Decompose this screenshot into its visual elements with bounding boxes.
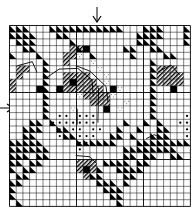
dot-cell (92, 122, 94, 124)
hatch-cell (70, 46, 77, 53)
dot-cell (52, 122, 54, 124)
dot-cell (59, 122, 61, 124)
hatch-cell (83, 79, 90, 86)
hatch-cell (90, 99, 97, 106)
dot-cell (92, 135, 94, 137)
hatch-cell (103, 99, 110, 106)
center-column-arrow (92, 7, 102, 23)
hatch-cell (77, 79, 84, 86)
dot-cell (72, 122, 74, 124)
hatch-cell (63, 52, 70, 59)
hatch-cell (97, 99, 104, 106)
dot-cell (92, 115, 94, 117)
hatch-cell (70, 72, 77, 79)
hatch-cell (177, 79, 184, 86)
dot-cell (85, 142, 87, 144)
dot-cell (179, 122, 181, 124)
dot-cell (186, 128, 188, 130)
dot-cell (79, 122, 81, 124)
dot-cell (92, 128, 94, 130)
solid-cell (83, 166, 90, 173)
dot-cell (99, 128, 101, 130)
dot-cell (79, 142, 81, 144)
hatch-cell (90, 79, 97, 86)
hatch-cell (164, 72, 171, 79)
dot-cell (79, 128, 81, 130)
dot-cell (65, 122, 67, 124)
pattern-grid (9, 25, 191, 207)
solid-cell (83, 46, 90, 53)
hatch-cell (170, 79, 177, 86)
dot-cell (59, 128, 61, 130)
hatch-cell (83, 93, 90, 100)
solid-cell (110, 86, 117, 93)
hatch-cell (164, 79, 171, 86)
dot-cell (186, 122, 188, 124)
hatch-cell (16, 72, 23, 79)
dot-cell (79, 135, 81, 137)
hatch-cell (63, 72, 70, 79)
solid-cell (56, 86, 63, 93)
hatch-cell (157, 79, 164, 86)
dot-cell (79, 148, 81, 150)
hatch-cell (10, 86, 17, 93)
hatch-cell (70, 86, 77, 93)
arrow-down-icon (92, 7, 102, 23)
dot-cell (79, 115, 81, 117)
hatch-cell (157, 72, 164, 79)
hatch-cell (83, 86, 90, 93)
dot-cell (85, 135, 87, 137)
dot-cell (186, 135, 188, 137)
hatch-cell (10, 79, 17, 86)
dot-cell (59, 115, 61, 117)
hatch-cell (63, 79, 70, 86)
dot-cell (85, 122, 87, 124)
hatch-cell (77, 160, 84, 167)
dot-cell (186, 115, 188, 117)
solid-cell (103, 106, 110, 113)
hatch-cell (90, 166, 97, 173)
dot-cell (59, 135, 61, 137)
hatch-cell (77, 166, 84, 173)
hatch-cell (97, 86, 104, 93)
hatch-cell (83, 160, 90, 167)
dot-cell (72, 128, 74, 130)
hatch-cell (70, 52, 77, 59)
dot-cell (65, 115, 67, 117)
hatch-cell (97, 93, 104, 100)
hatch-cell (77, 86, 84, 93)
hatch-cell (83, 173, 90, 180)
hatch-cell (23, 66, 30, 73)
pattern-chart (9, 25, 191, 207)
hatch-cell (16, 66, 23, 73)
dot-cell (85, 115, 87, 117)
hatch-cell (63, 59, 70, 66)
solid-cell (170, 86, 177, 93)
solid-cell (70, 79, 77, 86)
solid-cell (36, 86, 43, 93)
hatch-cell (77, 72, 84, 79)
hatch-cell (170, 72, 177, 79)
hatch-cell (63, 86, 70, 93)
